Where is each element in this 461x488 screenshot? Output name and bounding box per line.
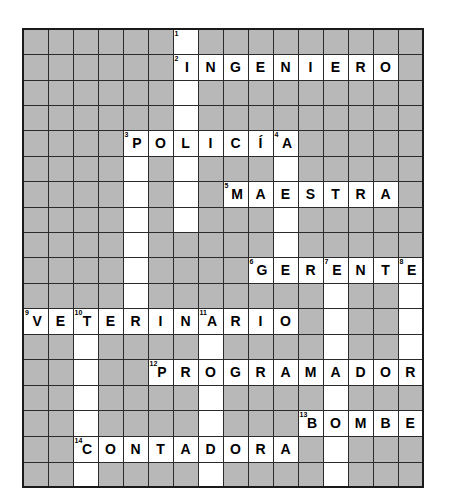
crossword-cell-open[interactable]: 11A <box>198 308 223 334</box>
crossword-cell-open[interactable]: C <box>223 130 248 156</box>
crossword-cell-open[interactable]: E <box>398 410 423 436</box>
crossword-cell-open[interactable] <box>173 105 198 130</box>
crossword-cell-open[interactable]: 2I <box>173 54 198 80</box>
crossword-cell-open[interactable]: E <box>273 181 298 207</box>
crossword-cell-open[interactable]: 8E <box>398 257 423 283</box>
crossword-cell-open[interactable]: N <box>173 308 198 334</box>
crossword-cell-open[interactable] <box>273 207 298 232</box>
crossword-cell-open[interactable]: O <box>373 359 398 385</box>
crossword-cell-open[interactable]: S <box>298 181 323 207</box>
crossword-cell-open[interactable]: O <box>148 130 173 156</box>
crossword-puzzle[interactable]: 12INGENIERO3POLICÍ4A5MAESTRA6GER7ENT8E9V… <box>22 28 424 488</box>
crossword-cell-open[interactable]: R <box>223 308 248 334</box>
crossword-cell-open[interactable]: O <box>223 436 248 462</box>
crossword-cell-open[interactable]: D <box>348 359 373 385</box>
crossword-cell-open[interactable]: N <box>123 436 148 462</box>
crossword-cell-open[interactable] <box>273 232 298 257</box>
crossword-cell-open[interactable]: 14C <box>73 436 98 462</box>
crossword-cell-open[interactable]: I <box>198 130 223 156</box>
crossword-cell-open[interactable]: A <box>173 436 198 462</box>
crossword-cell-open[interactable] <box>73 462 98 487</box>
crossword-cell-open[interactable]: 4A <box>273 130 298 156</box>
crossword-cell-open[interactable]: 13B <box>298 410 323 436</box>
crossword-cell-open[interactable] <box>173 80 198 105</box>
crossword-cell-open[interactable] <box>198 410 223 436</box>
crossword-cell-open[interactable] <box>398 283 423 308</box>
crossword-cell-open[interactable]: L <box>173 130 198 156</box>
crossword-cell-open[interactable]: N <box>348 257 373 283</box>
crossword-cell-open[interactable]: 7E <box>323 257 348 283</box>
crossword-cell-open[interactable]: 10T <box>73 308 98 334</box>
crossword-cell-open[interactable]: E <box>48 308 73 334</box>
crossword-cell-open[interactable] <box>323 334 348 359</box>
crossword-cell-open[interactable]: T <box>373 257 398 283</box>
crossword-cell-open[interactable]: R <box>298 257 323 283</box>
crossword-cell-open[interactable]: 12P <box>148 359 173 385</box>
crossword-cell-open[interactable] <box>173 156 198 181</box>
crossword-cell-open[interactable] <box>398 308 423 334</box>
crossword-cell-open[interactable]: G <box>223 359 248 385</box>
crossword-cell-open[interactable]: 6G <box>248 257 273 283</box>
crossword-cell-open[interactable]: R <box>348 54 373 80</box>
crossword-cell-open[interactable]: I <box>298 54 323 80</box>
crossword-cell-open[interactable]: M <box>348 410 373 436</box>
crossword-grid[interactable]: 12INGENIERO3POLICÍ4A5MAESTRA6GER7ENT8E9V… <box>22 28 424 488</box>
crossword-cell-open[interactable] <box>323 462 348 487</box>
crossword-cell-open[interactable] <box>73 410 98 436</box>
crossword-cell-open[interactable] <box>123 257 148 283</box>
crossword-cell-open[interactable]: I <box>248 308 273 334</box>
crossword-cell-open[interactable]: E <box>323 54 348 80</box>
crossword-cell-open[interactable]: I <box>148 308 173 334</box>
crossword-cell-open[interactable] <box>198 334 223 359</box>
crossword-cell-open[interactable] <box>73 359 98 385</box>
crossword-cell-open[interactable] <box>73 385 98 410</box>
crossword-cell-open[interactable]: R <box>348 181 373 207</box>
crossword-cell-open[interactable] <box>173 207 198 232</box>
crossword-cell-open[interactable]: A <box>323 359 348 385</box>
crossword-cell-open[interactable]: N <box>273 54 298 80</box>
crossword-cell-open[interactable]: R <box>123 308 148 334</box>
crossword-cell-open[interactable] <box>198 462 223 487</box>
crossword-cell-open[interactable]: A <box>373 181 398 207</box>
crossword-cell-open[interactable]: R <box>248 359 273 385</box>
crossword-cell-open[interactable]: G <box>223 54 248 80</box>
crossword-cell-open[interactable] <box>273 156 298 181</box>
crossword-cell-open[interactable]: N <box>198 54 223 80</box>
crossword-cell-open[interactable]: 3P <box>123 130 148 156</box>
crossword-cell-open[interactable]: E <box>273 257 298 283</box>
crossword-cell-open[interactable]: M <box>298 359 323 385</box>
crossword-cell-open[interactable]: O <box>98 436 123 462</box>
crossword-cell-open[interactable]: T <box>148 436 173 462</box>
crossword-cell-open[interactable]: E <box>98 308 123 334</box>
crossword-cell-open[interactable] <box>123 181 148 207</box>
crossword-cell-open[interactable] <box>198 385 223 410</box>
crossword-cell-open[interactable]: O <box>323 410 348 436</box>
crossword-cell-open[interactable]: 5M <box>223 181 248 207</box>
crossword-cell-open[interactable]: A <box>248 181 273 207</box>
crossword-cell-open[interactable]: R <box>248 436 273 462</box>
crossword-cell-open[interactable]: R <box>398 359 423 385</box>
crossword-cell-open[interactable] <box>123 232 148 257</box>
crossword-cell-open[interactable]: R <box>173 359 198 385</box>
crossword-cell-open[interactable]: 1 <box>173 29 198 54</box>
crossword-cell-open[interactable] <box>123 283 148 308</box>
crossword-cell-open[interactable] <box>323 308 348 334</box>
crossword-cell-open[interactable]: O <box>198 359 223 385</box>
crossword-cell-open[interactable] <box>323 283 348 308</box>
crossword-cell-open[interactable] <box>73 334 98 359</box>
crossword-cell-open[interactable]: O <box>373 54 398 80</box>
crossword-cell-open[interactable]: E <box>248 54 273 80</box>
crossword-cell-open[interactable]: Í <box>248 130 273 156</box>
crossword-cell-open[interactable]: A <box>273 436 298 462</box>
crossword-cell-open[interactable] <box>123 156 148 181</box>
crossword-cell-open[interactable]: T <box>323 181 348 207</box>
crossword-cell-open[interactable]: B <box>373 410 398 436</box>
crossword-cell-open[interactable] <box>398 334 423 359</box>
crossword-cell-open[interactable]: A <box>273 359 298 385</box>
crossword-cell-open[interactable] <box>323 436 348 462</box>
crossword-cell-open[interactable]: D <box>198 436 223 462</box>
crossword-cell-open[interactable] <box>123 207 148 232</box>
crossword-cell-open[interactable] <box>323 385 348 410</box>
crossword-cell-open[interactable] <box>173 181 198 207</box>
crossword-cell-open[interactable]: O <box>273 308 298 334</box>
